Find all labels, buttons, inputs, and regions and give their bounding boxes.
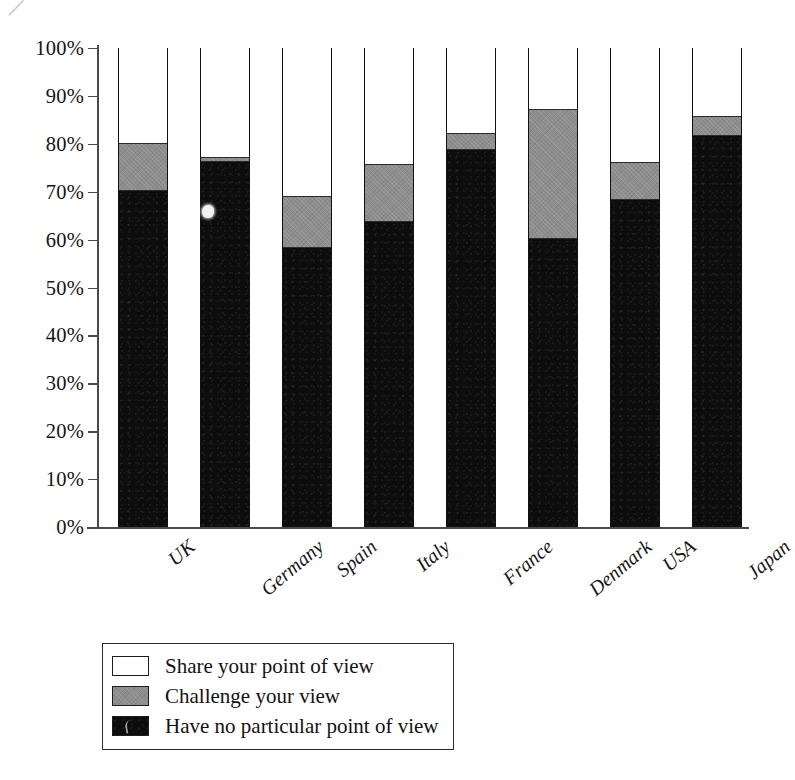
bar-japan [692,48,742,527]
segment-have-no-particular-point-of-view [119,191,167,526]
legend-label-have-no-particular-point-of-view: Have no particular point of view [165,714,439,739]
y-axis-tick [88,144,97,145]
y-axis-tick-label: 30% [46,372,84,395]
segment-share-your-point-of-view [119,47,167,143]
segment-share-your-point-of-view [447,47,495,133]
x-axis-label-germany: Germany [256,535,328,600]
x-axis-line [87,527,749,529]
y-axis-tick-label: 10% [46,468,84,491]
y-axis-tick [88,240,97,241]
segment-have-no-particular-point-of-view [283,248,331,526]
segment-share-your-point-of-view [365,47,413,164]
segment-challenge-your-view [693,116,741,135]
legend-item: Share your point of view [112,651,439,681]
segment-have-no-particular-point-of-view [611,200,659,526]
y-axis-tick-label: 60% [46,228,84,251]
y-axis-tick [88,431,97,432]
y-axis-tick [88,192,97,193]
y-axis-tick-label: 70% [46,180,84,203]
scan-speck [202,205,214,218]
segment-share-your-point-of-view [611,47,659,162]
segment-share-your-point-of-view [529,47,577,109]
segment-share-your-point-of-view [693,47,741,116]
chart-legend: Share your point of view Challenge your … [102,643,454,750]
legend-swatch-challenge-your-view [112,686,149,706]
y-axis-tick-label: 40% [46,324,84,347]
y-axis-tick-label: 50% [46,276,84,299]
bar-spain [282,48,332,527]
y-axis-tick [88,48,97,49]
legend-swatch-have-no-particular-point-of-view [112,716,149,736]
x-axis-label-japan: Japan [742,535,794,584]
y-axis-tick [88,383,97,384]
segment-have-no-particular-point-of-view [529,239,577,526]
y-axis-tick [88,335,97,336]
y-axis-tick-label: 0% [56,516,84,539]
legend-swatch-share-your-point-of-view [112,656,149,676]
bar-denmark [528,48,578,527]
y-axis-tick-label: 80% [46,132,84,155]
y-axis-tick-label: 90% [46,84,84,107]
x-axis-label-italy: Italy [412,535,455,576]
segment-have-no-particular-point-of-view [365,222,413,526]
x-axis-label-spain: Spain [332,535,382,582]
segment-share-your-point-of-view [283,47,331,195]
plot-area: 0%10%20%30%40%50%60%70%80%90%100% UKGerm… [97,48,747,527]
segment-challenge-your-view [611,162,659,200]
y-axis-tick-label: 20% [46,420,84,443]
y-axis-tick [88,96,97,97]
x-axis-label-usa: USA [658,535,701,576]
y-axis-tick-label: 100% [35,37,84,60]
segment-have-no-particular-point-of-view [447,150,495,526]
bar-germany [200,48,250,527]
y-axis-tick [88,479,97,480]
segment-challenge-your-view [119,143,167,191]
bar-uk [118,48,168,527]
segment-challenge-your-view [365,164,413,221]
x-axis-label-uk: UK [164,535,200,570]
bar-usa [610,48,660,527]
bar-france [446,48,496,527]
segment-challenge-your-view [283,196,331,249]
bar-italy [364,48,414,527]
segment-challenge-your-view [447,133,495,150]
y-axis-tick [88,288,97,289]
segment-share-your-point-of-view [201,47,249,157]
x-axis-label-denmark: Denmark [584,535,656,600]
legend-item: Have no particular point of view [112,711,439,741]
segment-challenge-your-view [529,109,577,238]
y-axis-tick [88,527,97,528]
legend-label-challenge-your-view: Challenge your view [165,684,340,709]
legend-label-share-your-point-of-view: Share your point of view [165,654,374,679]
segment-have-no-particular-point-of-view [693,136,741,526]
legend-item: Challenge your view [112,681,439,711]
y-axis-line [97,45,99,528]
scan-artifact: ⁄ [12,0,55,25]
x-axis-label-france: France [499,535,558,590]
